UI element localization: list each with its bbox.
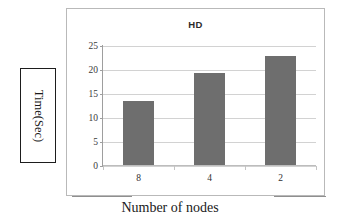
y-tick-label: 0 [93,161,98,171]
scan-artifact-right [274,196,326,197]
x-tick-label: 4 [207,173,212,183]
chart-title: HD [67,19,324,30]
y-tick-mark [100,118,103,119]
bar [123,101,154,165]
y-axis-title: Time(Sec) [31,89,46,141]
x-tick-label: 8 [136,173,141,183]
scan-artifact-left [72,196,132,197]
x-tick-mark [103,166,104,170]
bar [265,56,296,165]
y-tick-mark [100,94,103,95]
x-tick-label: 2 [278,173,283,183]
y-tick-label: 15 [89,89,99,99]
y-axis-title-box: Time(Sec) [20,68,56,163]
gridline [103,46,316,47]
x-tick-mark [245,166,246,170]
y-tick-mark [100,70,103,71]
plot-area: 0510152025 842 [103,46,316,166]
y-axis-line [102,45,103,166]
bar [194,73,225,165]
y-tick-label: 10 [89,113,99,123]
x-tick-mark [174,166,175,170]
y-tick-label: 5 [93,137,98,147]
y-tick-label: 25 [89,41,99,51]
y-tick-mark [100,142,103,143]
gridline [103,166,316,167]
y-tick-mark [100,46,103,47]
x-tick-mark [316,166,317,170]
y-tick-label: 20 [89,65,99,75]
x-axis-title: Number of nodes [0,200,340,216]
chart-frame: HD 0510152025 842 [66,8,325,196]
